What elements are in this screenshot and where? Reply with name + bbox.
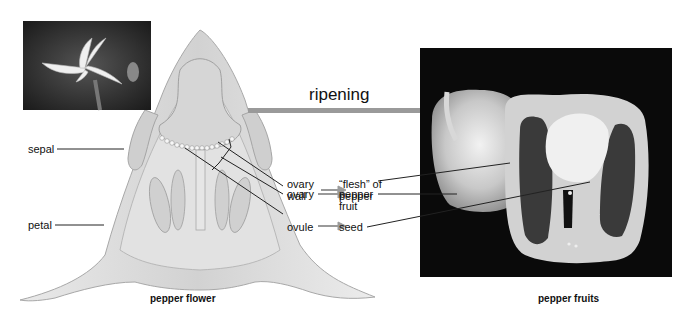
seed-label: seed	[339, 221, 363, 233]
ripening-title: ripening	[309, 85, 370, 105]
pepper-fruits-caption: pepper fruits	[538, 293, 599, 304]
ovule-label: ovule	[287, 221, 313, 233]
pepper-fruit-line1: pepper	[339, 188, 373, 200]
pepper-flower-photo	[23, 21, 151, 110]
ovary-label: ovary	[287, 188, 314, 200]
petal-label: petal	[28, 219, 52, 231]
sepal-label: sepal	[28, 143, 54, 155]
pepper-flower-caption: pepper flower	[150, 293, 216, 304]
ovary-line1: ovary	[287, 188, 314, 200]
pepper-fruit-line2: fruit	[339, 200, 373, 212]
diagram-canvas	[0, 0, 689, 316]
pepper-fruit-label: pepper fruit	[339, 188, 373, 212]
pepper-fruits-photo	[420, 48, 672, 277]
